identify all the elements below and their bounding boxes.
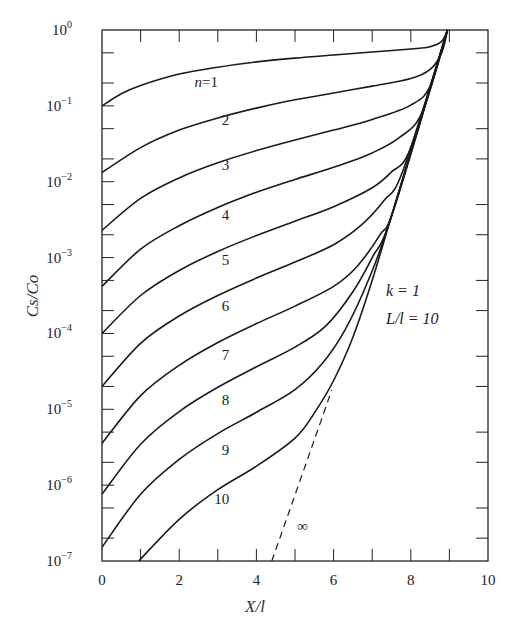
curve-label-n3: 3: [222, 157, 230, 173]
curve-n4: [102, 30, 448, 286]
x-tick-label: 0: [98, 572, 106, 588]
curve-label-n4: 4: [222, 207, 230, 223]
y-tick-label: 10−7: [46, 550, 72, 569]
axis-ticks: [102, 30, 488, 561]
x-tick-label: 8: [407, 572, 415, 588]
x-tick-label: 4: [253, 572, 261, 588]
curve-label-ninf: ∞: [297, 518, 308, 534]
curve-label-n2: 2: [222, 112, 230, 128]
curve-labels: n=12345678910∞: [194, 74, 308, 534]
curve-label-n7: 7: [222, 347, 230, 363]
y-tick-label: 10−2: [46, 171, 72, 190]
y-tick-labels: 10010−110−210−310−410−510−610−7: [46, 19, 72, 569]
curve-n1: [102, 30, 448, 106]
y-tick-label: 10−3: [46, 247, 72, 266]
y-axis-title: Cs/Co: [23, 275, 42, 318]
curve-label-n1: n=1: [194, 74, 217, 90]
curve-label-n5: 5: [222, 252, 230, 268]
y-tick-label: 10−5: [46, 398, 72, 417]
curve-ninf: [272, 390, 332, 561]
curve-label-n9: 9: [222, 442, 230, 458]
y-tick-label: 10−1: [46, 95, 72, 114]
plot-frame: [102, 30, 488, 561]
curve-label-n6: 6: [222, 298, 230, 314]
chart-canvas: 0246810 10010−110−210−310−410−510−610−7 …: [0, 0, 516, 637]
x-tick-label: 6: [330, 572, 338, 588]
y-tick-label: 10−6: [46, 474, 72, 493]
x-tick-labels: 0246810: [98, 572, 495, 588]
annotation-L-over-l: L/l = 10: [385, 310, 439, 327]
curve-n2: [102, 30, 448, 173]
x-axis-title: X/l: [244, 597, 265, 616]
annotation-k: k = 1: [386, 282, 420, 299]
curve-label-n10: 10: [214, 491, 229, 507]
y-tick-label: 100: [52, 19, 72, 38]
x-tick-label: 2: [175, 572, 183, 588]
curve-n6: [102, 30, 448, 387]
x-tick-label: 10: [481, 572, 496, 588]
y-tick-label: 10−4: [46, 322, 72, 341]
curve-n7: [102, 30, 448, 443]
curve-label-n8: 8: [222, 392, 230, 408]
curve-n8: [102, 30, 448, 494]
